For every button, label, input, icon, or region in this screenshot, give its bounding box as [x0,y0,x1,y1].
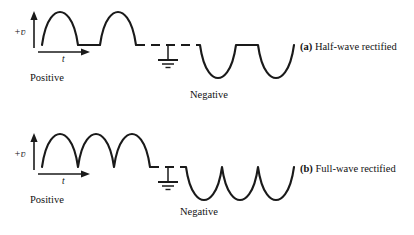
panel-half-wave: +ʋ t Positive Negative (a) Half-wave rec… [0,0,414,118]
caption-half-wave: (a) Half-wave rectified [300,41,397,53]
half-wave-positive-trace [42,12,136,45]
negative-region-label-b: Negative [180,206,218,217]
caption-full-wave: (b) Full-wave rectified [300,163,396,175]
negative-region-label-a: Negative [190,89,228,100]
ground-icon [158,45,178,68]
vertical-axis-arrow-icon [30,133,37,170]
rectified-waveform-figure: +ʋ t Positive Negative (a) Half-wave rec… [0,0,414,235]
caption-text-b: Full-wave rectified [315,163,395,174]
vertical-axis-label-a: +ʋ [14,26,26,37]
positive-region-label-b: Positive [30,194,64,205]
caption-tag-b: (b) [300,163,313,174]
caption-text-a: Half-wave rectified [315,41,397,52]
vertical-axis-label-b: +ʋ [14,148,26,159]
vertical-axis-arrow-icon [30,11,37,48]
caption-tag-a: (a) [300,41,312,52]
time-axis-label-a: t [62,54,65,64]
time-axis-label-b: t [62,176,65,186]
full-wave-negative-trace [186,167,294,200]
ground-icon [158,167,178,190]
full-wave-positive-trace [42,134,150,167]
positive-region-label-a: Positive [30,72,64,83]
half-wave-negative-trace [200,45,294,78]
